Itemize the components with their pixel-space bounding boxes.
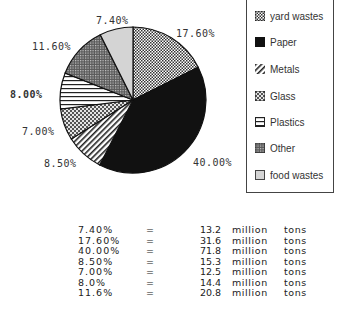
unit-cell: million bbox=[232, 267, 268, 278]
unit-cell: million bbox=[232, 288, 268, 299]
chart-legend: yard wastes Paper Metals Glass Plastics … bbox=[246, 0, 334, 193]
tons-cell: tons bbox=[284, 246, 307, 257]
legend-label: Glass bbox=[270, 91, 296, 102]
glass-swatch-icon bbox=[255, 91, 265, 101]
percent-cell: 11.6% bbox=[78, 288, 113, 299]
unit-cell: million bbox=[232, 246, 268, 257]
legend-label: yard wastes bbox=[270, 11, 323, 22]
pie-label-metals: 8.50% bbox=[44, 158, 77, 169]
equals-sign: = bbox=[146, 225, 154, 236]
food-wastes-swatch-icon bbox=[255, 170, 265, 180]
metals-swatch-icon bbox=[255, 64, 265, 74]
equals-sign: = bbox=[146, 288, 154, 299]
pie-slices bbox=[60, 27, 206, 173]
value-cell: 20.8 bbox=[200, 288, 221, 299]
value-cell: 71.8 bbox=[200, 246, 221, 257]
yard-wastes-swatch-icon bbox=[255, 11, 265, 21]
legend-label: Other bbox=[270, 143, 295, 154]
other-swatch-icon bbox=[255, 143, 265, 153]
legend-item-plastics: Plastics bbox=[255, 115, 304, 129]
value-cell: 13.2 bbox=[200, 225, 221, 236]
legend-label: Metals bbox=[270, 64, 299, 75]
pie-label-food-wastes: 7.40% bbox=[96, 15, 129, 26]
pie-label-paper: 40.00% bbox=[193, 157, 232, 168]
legend-item-food-wastes: food wastes bbox=[255, 168, 323, 182]
unit-cell: million bbox=[232, 225, 268, 236]
percent-cell: 40.00% bbox=[78, 246, 120, 257]
value-cell: 12.5 bbox=[200, 267, 221, 278]
tons-cell: tons bbox=[284, 225, 307, 236]
percent-cell: 7.40% bbox=[78, 225, 113, 236]
legend-item-paper: Paper bbox=[255, 35, 297, 49]
tons-cell: tons bbox=[284, 267, 307, 278]
paper-swatch-icon bbox=[255, 37, 265, 47]
legend-item-glass: Glass bbox=[255, 89, 296, 103]
equals-sign: = bbox=[146, 246, 154, 257]
pie-label-glass: 7.00% bbox=[22, 126, 55, 137]
pie-label-plastics: 8.00% bbox=[10, 89, 43, 100]
legend-item-yard-wastes: yard wastes bbox=[255, 9, 323, 23]
percent-cell: 7.00% bbox=[78, 267, 113, 278]
legend-item-metals: Metals bbox=[255, 62, 299, 76]
equals-sign: = bbox=[146, 267, 154, 278]
legend-label: Paper bbox=[270, 37, 297, 48]
tons-cell: tons bbox=[284, 288, 307, 299]
legend-item-other: Other bbox=[255, 141, 295, 155]
legend-label: Plastics bbox=[270, 117, 304, 128]
plastics-swatch-icon bbox=[255, 117, 265, 127]
legend-label: food wastes bbox=[270, 170, 323, 181]
pie-label-yard-wastes: 17.60% bbox=[176, 28, 215, 39]
pie-label-other: 11.60% bbox=[32, 41, 71, 52]
